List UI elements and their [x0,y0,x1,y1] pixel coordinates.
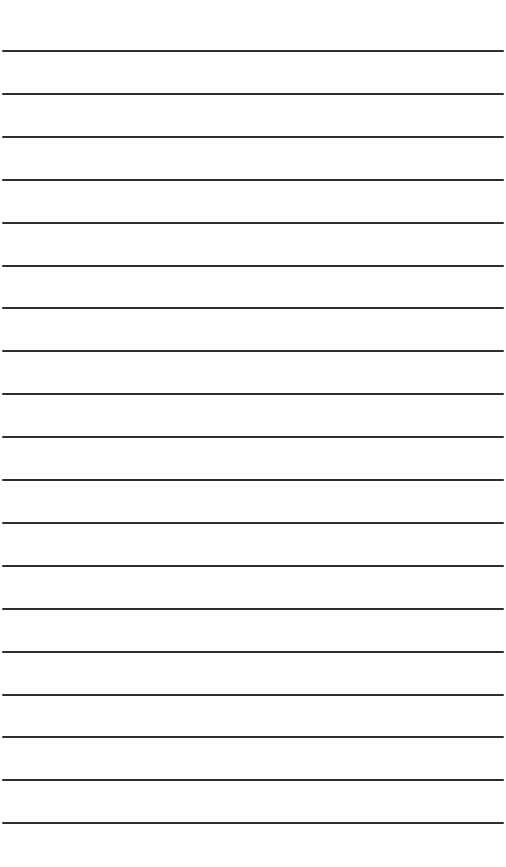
lined-paper-page [0,0,506,867]
ruled-line [2,479,504,481]
ruled-line [2,265,504,267]
ruled-line [2,136,504,138]
ruled-line [2,307,504,309]
ruled-line [2,694,504,696]
ruled-line [2,522,504,524]
ruled-line [2,350,504,352]
ruled-line [2,222,504,224]
ruled-line [2,393,504,395]
ruled-line [2,651,504,653]
ruled-line [2,608,504,610]
ruled-line [2,565,504,567]
ruled-line [2,179,504,181]
ruled-line [2,93,504,95]
ruled-line [2,779,504,781]
ruled-line [2,822,504,824]
ruled-line [2,736,504,738]
ruled-line [2,50,504,52]
ruled-line [2,436,504,438]
